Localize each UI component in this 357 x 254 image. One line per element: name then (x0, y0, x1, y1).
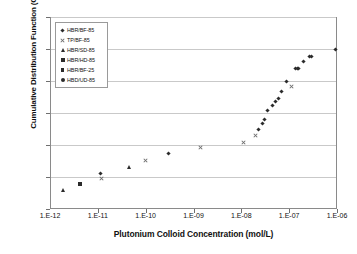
square-small-marker-icon (61, 68, 64, 71)
y-tick-mark (46, 81, 50, 82)
x-tick-mark (146, 209, 147, 213)
x-tick-label: 1.E-08 (221, 212, 261, 219)
chart-container: 00.20.40.60.811.2 1.E-121.E-111.E-101.E-… (0, 0, 357, 254)
legend-label: HBD/UD-85 (67, 77, 95, 83)
y-tick-mark (46, 49, 50, 50)
legend-marker (58, 58, 67, 62)
y-axis-title: Cumulative Distribution Function (CDF) (29, 0, 38, 152)
y-tick-mark (46, 209, 50, 210)
x-tick-mark (337, 209, 338, 213)
cross-marker-icon (99, 176, 104, 181)
y-tick-mark (46, 177, 50, 178)
legend-label: TP/BF-85 (67, 37, 90, 43)
triangle-marker-icon (61, 48, 65, 52)
cross-marker-icon (198, 145, 203, 150)
legend-marker (58, 38, 67, 43)
legend-marker (58, 78, 67, 82)
triangle-marker-icon (127, 165, 131, 169)
cross-marker-icon (60, 38, 65, 43)
circle-marker-icon (61, 78, 65, 82)
legend-label: HBR/BF-85 (67, 27, 94, 33)
triangle-marker-icon (61, 188, 65, 192)
x-tick-label: 1.E-09 (174, 212, 214, 219)
diamond-marker-icon (60, 28, 64, 32)
legend-label: HBR/HD-85 (67, 57, 95, 63)
x-tick-mark (241, 209, 242, 213)
x-tick-label: 1.E-10 (126, 212, 166, 219)
cross-marker-icon (143, 158, 148, 163)
legend-item: HBR/BF-25 (58, 65, 106, 75)
legend-item: HBR/HD-85 (58, 55, 106, 65)
legend-label: HBR/BF-25 (67, 67, 94, 73)
legend-marker (58, 29, 67, 32)
gridline (51, 177, 336, 178)
gridline (51, 113, 336, 114)
cross-marker-icon (289, 84, 294, 89)
diamond-marker-icon (284, 79, 288, 83)
x-tick-label: 1.E-06 (317, 212, 357, 219)
gridline (51, 17, 336, 18)
legend-item: HBD/UD-85 (58, 75, 106, 85)
y-tick-mark (46, 17, 50, 18)
x-tick-mark (289, 209, 290, 213)
gridline (51, 145, 336, 146)
x-tick-label: 1.E-12 (30, 212, 70, 219)
legend-item: HBR/BF-85 (58, 25, 106, 35)
square-marker-icon (78, 182, 82, 186)
legend-label: HBR/SD-85 (67, 47, 95, 53)
legend-item: HBR/SD-85 (58, 45, 106, 55)
legend-marker (58, 48, 67, 52)
chart-legend: HBR/BF-85TP/BF-85HBR/SD-85HBR/HD-85HBR/B… (55, 22, 108, 88)
x-tick-label: 1.E-07 (269, 212, 309, 219)
cross-marker-icon (253, 133, 258, 138)
legend-item: TP/BF-85 (58, 35, 106, 45)
y-tick-mark (46, 145, 50, 146)
y-tick-mark (46, 113, 50, 114)
legend-marker (58, 68, 67, 71)
x-axis-title: Plutonium Colloid Concentration (mol/L) (40, 229, 347, 239)
square-marker-icon (61, 58, 65, 62)
x-tick-mark (98, 209, 99, 213)
x-tick-mark (194, 209, 195, 213)
cross-marker-icon (241, 140, 246, 145)
x-tick-label: 1.E-11 (78, 212, 118, 219)
